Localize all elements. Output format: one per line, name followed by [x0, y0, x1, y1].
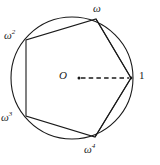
vertex-label-omega3: ω3 [1, 112, 12, 123]
roots-of-unity-figure: ω ω2 ω3 ω4 1 O [0, 0, 160, 165]
vertex-dot-one [130, 77, 133, 80]
figure-canvas [0, 0, 160, 165]
vertex-label-omega2: ω2 [4, 30, 15, 41]
vertex-label-omega: ω [93, 3, 101, 14]
center-dot [78, 77, 81, 80]
vertex-label-omega4: ω4 [84, 144, 95, 155]
origin-label: O [59, 70, 67, 81]
vertex-label-one: 1 [139, 70, 145, 81]
